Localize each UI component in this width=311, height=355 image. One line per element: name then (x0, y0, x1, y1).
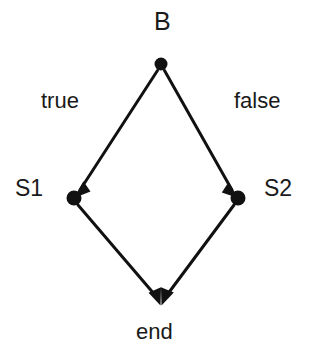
edge-label-false: false (234, 90, 280, 112)
edge-line-b-s2 (165, 71, 233, 191)
edge-s1-to-end (78, 205, 161, 306)
node-label-b: B (154, 9, 171, 34)
edge-line-s1-end (78, 205, 155, 295)
node-label-end: end (136, 321, 173, 343)
edge-b-to-s2 (165, 71, 239, 199)
node-s1-dot (67, 191, 82, 206)
edge-s2-to-end (161, 205, 234, 306)
flow-diagram: B true false S1 S2 end (0, 0, 311, 355)
node-b-dot (155, 58, 168, 71)
node-s2-dot (231, 191, 246, 206)
edge-line-b-s1 (80, 71, 158, 191)
edge-b-to-s1 (74, 71, 158, 199)
edge-label-true: true (41, 90, 79, 112)
node-label-s2: S2 (264, 177, 292, 200)
node-label-s1: S1 (15, 177, 43, 200)
edge-line-s2-end (167, 205, 234, 295)
